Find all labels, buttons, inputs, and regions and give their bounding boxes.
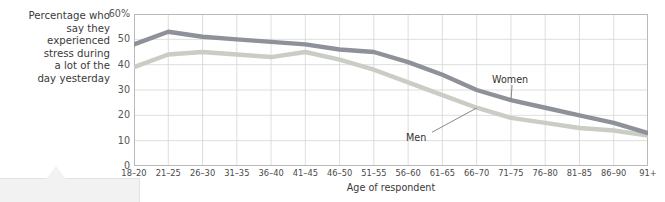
y-axis-tick-label: 30 xyxy=(104,85,130,95)
x-axis-tick-label: 86–90 xyxy=(601,168,626,178)
decorative-callout-tail xyxy=(46,166,66,179)
x-axis-tick-label: 81–85 xyxy=(567,168,592,178)
y-axis-tick-label: 20 xyxy=(104,110,130,120)
x-axis-title: Age of respondent xyxy=(134,182,648,193)
x-axis-tick-label: 71–75 xyxy=(498,168,523,178)
decorative-callout-box xyxy=(0,178,140,202)
x-axis-tick-label: 91+ xyxy=(639,168,657,178)
leader-line-men xyxy=(430,106,479,134)
x-axis-tick-label: 36–40 xyxy=(258,168,283,178)
y-axis-tick-label: 60% xyxy=(104,9,130,19)
x-axis-tick-label: 41–45 xyxy=(293,168,318,178)
series-label-men: Men xyxy=(406,132,426,143)
x-axis-tick-label: 51–55 xyxy=(361,168,386,178)
x-axis-tick-label: 26–30 xyxy=(190,168,215,178)
x-axis-tick-label: 66–70 xyxy=(464,168,489,178)
x-axis-tick-label: 76–80 xyxy=(533,168,558,178)
x-axis-tick-label: 18–20 xyxy=(121,168,146,178)
x-axis-tick-label: 31–35 xyxy=(224,168,249,178)
x-axis-tick-label: 46–50 xyxy=(327,168,352,178)
chart-svg xyxy=(134,14,648,166)
chart-figure: Percentage who say they experienced stre… xyxy=(0,0,665,202)
y-axis-tick-label: 50 xyxy=(104,34,130,44)
leader-line-women xyxy=(509,83,514,102)
x-axis: 18–2021–2526–3031–3536–4041–4546–5051–55… xyxy=(134,168,648,182)
chart-caption: Percentage who say they experienced stre… xyxy=(6,10,110,86)
x-axis-tick-label: 56–60 xyxy=(395,168,420,178)
y-axis-tick-label: 10 xyxy=(104,136,130,146)
x-axis-tick-label: 61–65 xyxy=(430,168,455,178)
x-axis-tick-label: 21–25 xyxy=(156,168,181,178)
plot-area xyxy=(134,14,648,166)
y-axis-tick-label: 40 xyxy=(104,60,130,70)
